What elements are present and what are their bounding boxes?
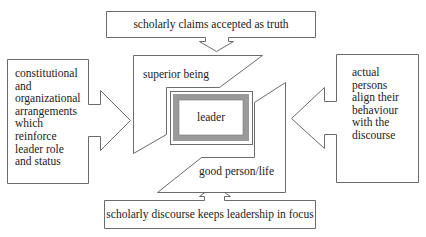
lower-frame-text: good person/life bbox=[199, 166, 274, 178]
left-line: which bbox=[15, 117, 87, 130]
left-line: leader role bbox=[15, 143, 87, 156]
right-callout-text: actual persons align their behaviour wit… bbox=[352, 66, 416, 142]
right-line: align their bbox=[352, 91, 416, 104]
left-line: organizational bbox=[15, 92, 87, 105]
left-line: reinforce bbox=[15, 130, 87, 143]
upper-frame-text: superior being bbox=[143, 69, 209, 81]
left-line: and bbox=[15, 80, 87, 93]
right-line: behaviour bbox=[352, 104, 416, 117]
right-line: with the bbox=[352, 116, 416, 129]
leader-text: leader bbox=[179, 112, 243, 124]
right-line: actual bbox=[352, 66, 416, 79]
left-line: and status bbox=[15, 155, 87, 168]
right-line: persons bbox=[352, 79, 416, 92]
right-line: discourse bbox=[352, 129, 416, 142]
left-line: constitutional bbox=[15, 67, 87, 80]
top-callout-text: scholarly claims accepted as truth bbox=[106, 19, 316, 31]
bottom-callout-text: scholarly discourse keeps leadership in … bbox=[104, 209, 316, 221]
left-callout-text: constitutional and organizational arrang… bbox=[15, 67, 87, 168]
left-line: arrangements bbox=[15, 105, 87, 118]
